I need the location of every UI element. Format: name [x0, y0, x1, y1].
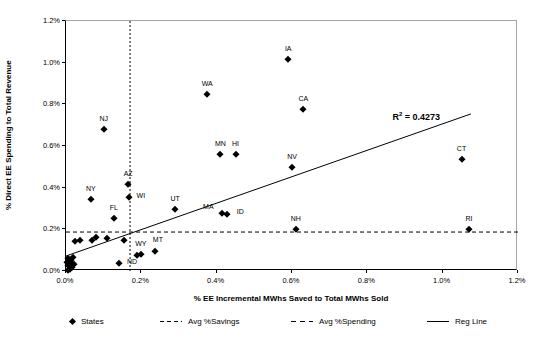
x-tick-label: 0.8%: [358, 276, 375, 285]
legend-item-avg-savings: Avg %Savings: [160, 314, 239, 328]
data-point-label: MN: [215, 140, 226, 147]
y-tick-label: 0.8%: [28, 99, 60, 108]
data-point-label: WY: [135, 239, 146, 246]
y-tick-label: 1.2%: [28, 16, 60, 25]
data-point-label: WI: [137, 192, 146, 199]
x-tick-label: 0.6%: [282, 276, 299, 285]
legend: StatesAvg %SavingsAvg %SpendingReg Line: [0, 314, 544, 328]
legend-label: Avg %Spending: [319, 317, 376, 326]
data-point-label: UT: [171, 194, 180, 201]
r-squared-value: = 0.4273: [402, 112, 440, 122]
data-point-label: WA: [202, 79, 213, 86]
data-point-label: FL: [110, 203, 118, 210]
x-tick-mark: [517, 270, 518, 273]
solid-line-marker-icon: [427, 319, 449, 324]
data-point-label: NJ: [99, 115, 108, 122]
data-point-label: RI: [466, 215, 473, 222]
y-tick-label: 0.0%: [28, 266, 60, 275]
legend-label: Avg %Savings: [188, 317, 239, 326]
y-tick-mark: [62, 103, 65, 104]
x-tick-label: 0.2%: [132, 276, 149, 285]
data-point-label: AZ: [124, 169, 133, 176]
dash-large-marker-icon: [291, 319, 313, 324]
x-tick-mark: [65, 270, 66, 273]
data-point-label: NH: [291, 215, 301, 222]
y-tick-label: 0.6%: [28, 141, 60, 150]
data-point-label: MT: [153, 236, 163, 243]
y-tick-mark: [62, 145, 65, 146]
plot-area: IAWACANJMNHINVCTAZWINYUTMAIDFLNHRIMTWYND…: [65, 20, 517, 270]
x-tick-mark: [366, 270, 367, 273]
x-tick-mark: [442, 270, 443, 273]
y-tick-mark: [62, 187, 65, 188]
data-point-label: ND: [127, 258, 137, 265]
data-point-label: CT: [457, 144, 466, 151]
legend-item-avg-spending: Avg %Spending: [291, 314, 376, 328]
y-tick-mark: [62, 20, 65, 21]
chart-lines-layer: [66, 21, 518, 271]
x-tick-label: 0.0%: [56, 276, 73, 285]
y-axis-title: % Direct EE Spending to Total Revenue: [4, 80, 13, 210]
scatter-chart: % Direct EE Spending to Total Revenue IA…: [0, 0, 544, 345]
y-tick-mark: [62, 228, 65, 229]
data-point-label: HI: [232, 139, 239, 146]
x-tick-mark: [140, 270, 141, 273]
legend-label: States: [81, 317, 104, 326]
x-tick-label: 1.2%: [508, 276, 525, 285]
data-point-label: ID: [237, 208, 244, 215]
x-tick-label: 1.0%: [433, 276, 450, 285]
data-point-label: IA: [285, 44, 292, 51]
r-squared-annotation: R2 = 0.4273: [392, 111, 440, 122]
y-tick-mark: [62, 62, 65, 63]
y-tick-label: 0.4%: [28, 182, 60, 191]
y-tick-label: 0.2%: [28, 224, 60, 233]
data-point-label: CA: [298, 94, 308, 101]
data-point-label: NV: [287, 152, 297, 159]
x-tick-mark: [291, 270, 292, 273]
dash-small-marker-icon: [160, 319, 182, 324]
legend-label: Reg Line: [455, 317, 487, 326]
y-tick-label: 1.0%: [28, 57, 60, 66]
legend-item-states: States: [70, 314, 104, 328]
x-axis-title: % EE Incremental MWhs Saved to Total MWh…: [65, 294, 517, 303]
x-tick-mark: [216, 270, 217, 273]
data-point-label: NY: [86, 185, 96, 192]
data-point-label: MA: [203, 202, 214, 209]
y-tick-mark: [62, 270, 65, 271]
legend-item-reg-line: Reg Line: [427, 314, 487, 328]
diamond-marker-icon: [69, 317, 76, 324]
x-tick-label: 0.4%: [207, 276, 224, 285]
